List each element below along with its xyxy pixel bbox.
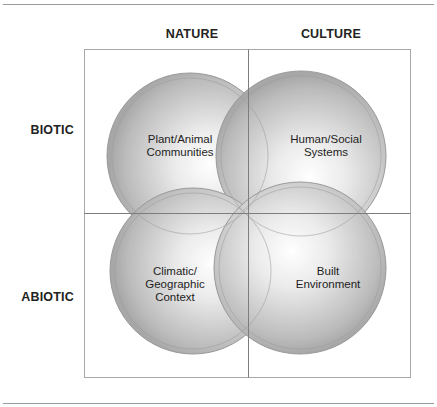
quadrant-venn-diagram bbox=[0, 0, 437, 407]
bottom-rule bbox=[3, 403, 434, 404]
circles bbox=[107, 71, 386, 354]
label-built-environment: Built Environment bbox=[268, 265, 388, 291]
label-plant-animal-communities: Plant/Animal Communities bbox=[120, 133, 240, 159]
label-climatic-geographic-context: Climatic/ Geographic Context bbox=[115, 265, 235, 304]
label-human-social-systems: Human/Social Systems bbox=[266, 133, 386, 159]
